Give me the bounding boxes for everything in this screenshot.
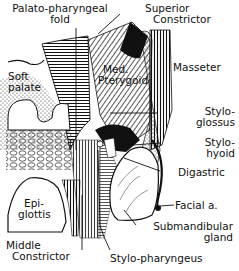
label-stylo-glossus: Stylo- glossus [196,106,235,128]
label-middle-constrictor: Middle Constrictor [6,240,70,262]
label-line: Pterygoid [98,75,148,86]
anatomy-figure: Palato-pharyngeal fold Superior Constric… [0,0,239,271]
label-superior-constrictor: Superior Constrictor [145,3,211,25]
label-masseter: Masseter [173,62,221,73]
submandibular-gland [110,147,159,220]
label-facial-artery: Facial a. [175,200,218,211]
label-line: gland [153,232,233,243]
label-digastric: Digastric [178,167,225,178]
label-line: hyoid [205,148,235,159]
label-palato-pharyngeal-fold: Palato-pharyngeal fold [4,3,116,25]
label-line: palate [8,82,41,93]
label-epiglottis: Epi- glottis [18,198,51,220]
label-submandibular-gland: Submandibular gland [153,221,233,243]
label-line: Constrictor [145,14,211,25]
label-line: fold [4,14,116,25]
label-stylo-pharyngeus: Stylo-pharyngeus [110,253,203,264]
label-soft-palate: Soft palate [8,71,41,93]
label-line: glossus [196,117,235,128]
label-stylo-hyoid: Stylo- hyoid [205,137,235,159]
label-line: Constrictor [6,251,70,262]
label-med-pterygoid: Med. Pterygoid [98,64,148,86]
label-line: glottis [18,209,51,220]
